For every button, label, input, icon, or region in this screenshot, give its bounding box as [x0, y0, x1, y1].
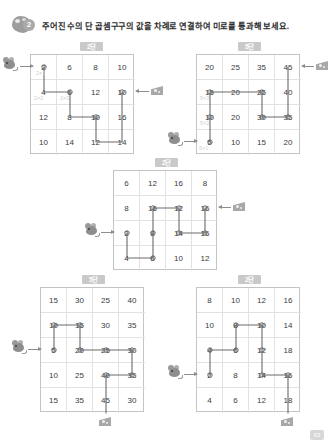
table-row: 10: [249, 313, 275, 338]
table-row: 10: [109, 80, 135, 105]
start-arrow: [184, 141, 197, 142]
table-row: 45: [275, 55, 301, 80]
table-row: 30: [67, 288, 93, 313]
table-row: 2: [31, 55, 57, 80]
cheese-icon: [315, 59, 329, 72]
instruction-text: 주어진 수의 단 곱셈구구의 값을 차례로 연결하여 미로를 통과해 보세요.: [42, 19, 289, 31]
table-row: 12: [192, 246, 218, 271]
table-row: 14: [249, 363, 275, 388]
end-arrow: [219, 207, 231, 208]
table-row: 18: [275, 388, 301, 413]
cheese-icon: [280, 415, 294, 428]
mouse-icon: [2, 57, 18, 72]
table-row: 6: [57, 80, 83, 105]
maze-bottom-left-grid: 15 30 25 40 10 15 30 35 5 20 25 30 10 25…: [40, 287, 144, 412]
table-row: 16: [192, 221, 218, 246]
table-row: 16: [109, 105, 135, 130]
table-row: 12: [83, 80, 109, 105]
table-row: 8: [140, 221, 166, 246]
table-row: 20: [275, 130, 301, 155]
maze-top-right-grid: 20 25 35 45 15 20 25 40 10 20 30 35 5 10…: [196, 54, 300, 154]
table-row: 8: [223, 363, 249, 388]
table-row: 5: [197, 130, 223, 155]
end-arrow: [302, 66, 314, 67]
start-arrow: [20, 66, 33, 67]
table-row: 14: [109, 130, 135, 155]
table-row: 25: [223, 55, 249, 80]
annotation-text: 2×2: [34, 95, 43, 101]
maze-top-right-label: 5단: [238, 42, 261, 51]
table-row: 35: [67, 388, 93, 413]
worksheet-header: 2 주어진 수의 단 곱셈구구의 값을 차례로 연결하여 미로를 통과해 보세요…: [0, 14, 332, 36]
table-row: 4: [114, 246, 140, 271]
table-row: 12: [83, 130, 109, 155]
table-row: 8: [197, 288, 223, 313]
table-row: 14: [57, 130, 83, 155]
mouse-icon: [11, 340, 27, 355]
table-row: 20: [67, 338, 93, 363]
table-row: 8: [223, 313, 249, 338]
table-row: 12: [249, 338, 275, 363]
maze-top-left: 2단 2 6 8 10 4 6 12 10 12 8 10 16 10 14 1…: [30, 42, 160, 160]
table-row: 6: [223, 388, 249, 413]
table-row: 10: [223, 288, 249, 313]
mouse-icon: [84, 223, 100, 238]
table-row: 6: [114, 171, 140, 196]
table-row: 10: [41, 313, 67, 338]
end-arrow: [136, 91, 149, 92]
table-row: 12: [249, 388, 275, 413]
start-arrow: [28, 349, 41, 350]
maze-bottom-right-grid: 8 10 12 16 10 8 10 14 4 6 12 18 2 8 14 1…: [196, 287, 300, 412]
table-row: 10: [109, 55, 135, 80]
table-row: 10: [197, 313, 223, 338]
table-row: 15: [197, 80, 223, 105]
table-row: 35: [119, 313, 145, 338]
table-row: 16: [166, 171, 192, 196]
table-row: 20: [223, 105, 249, 130]
worksheet-page: 2 주어진 수의 단 곱셈구구의 값을 차례로 연결하여 미로를 통과해 보세요…: [0, 0, 332, 447]
table-row: 45: [93, 388, 119, 413]
maze-middle-grid: 6 12 16 8 8 16 12 16 2 8 14 16 4 6 10 12: [113, 170, 217, 270]
table-row: 25: [93, 288, 119, 313]
table-row: 16: [192, 196, 218, 221]
page-number: 63: [310, 430, 324, 440]
table-row: 10: [166, 246, 192, 271]
maze-top-left-label: 2단: [80, 42, 103, 51]
table-row: 12: [31, 105, 57, 130]
cheese-icon: [232, 200, 246, 213]
cheese-icon: [98, 415, 112, 428]
start-arrow: [184, 374, 197, 375]
maze-bottom-right-label: 2단: [238, 275, 261, 284]
table-row: 4: [197, 388, 223, 413]
mouse-icon: [167, 365, 183, 380]
annotation-text: 2×1: [36, 70, 45, 76]
table-row: 25: [67, 363, 93, 388]
table-row: 10: [41, 363, 67, 388]
table-row: 40: [119, 288, 145, 313]
table-row: 10: [31, 130, 57, 155]
table-row: 35: [119, 363, 145, 388]
annotation-text: 5×2: [200, 120, 209, 126]
table-row: 8: [57, 105, 83, 130]
maze-bottom-left-label: 5단: [82, 275, 105, 284]
table-row: 15: [41, 288, 67, 313]
table-row: 25: [249, 80, 275, 105]
table-row: 10: [223, 130, 249, 155]
table-row: 6: [223, 338, 249, 363]
table-row: 20: [197, 55, 223, 80]
table-row: 15: [67, 313, 93, 338]
table-row: 12: [166, 196, 192, 221]
table-row: 20: [223, 80, 249, 105]
annotation-text: 5×3: [200, 95, 209, 101]
table-row: 14: [166, 221, 192, 246]
table-row: 40: [275, 80, 301, 105]
start-arrow: [101, 232, 114, 233]
table-row: 16: [140, 196, 166, 221]
table-row: 8: [192, 171, 218, 196]
table-row: 18: [275, 338, 301, 363]
maze-bottom-left: 5단 15 30 25 40 10 15 30 35 5 20 25 30 10…: [40, 275, 170, 415]
table-row: 8: [83, 55, 109, 80]
table-row: 12: [140, 171, 166, 196]
table-row: 2: [197, 363, 223, 388]
table-row: 2: [114, 221, 140, 246]
